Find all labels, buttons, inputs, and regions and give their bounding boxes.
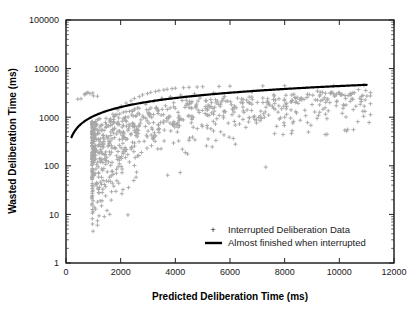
y-tick-label: 10000	[34, 64, 59, 74]
legend-plus-marker-icon: +	[210, 224, 216, 235]
y-axis-title: Wasted Deliberation Time (ms)	[7, 68, 18, 214]
x-tick-label: 8000	[275, 267, 295, 277]
x-axis-title: Predicted Deliberation Time (ms)	[152, 291, 308, 302]
y-tick-label: 100000	[29, 15, 59, 25]
legend-item-line: Almost finished when interrupted	[205, 237, 366, 248]
y-tick-label: 100	[44, 161, 59, 171]
x-tick-label: 4000	[165, 267, 185, 277]
x-tick-label: 12000	[381, 267, 406, 277]
legend-label-scatter: Interrupted Deliberation Data	[228, 224, 351, 235]
x-tick-label: 0	[63, 267, 68, 277]
y-tick-label: 10	[49, 210, 59, 220]
x-tick-label: 10000	[327, 267, 352, 277]
scatter-plot: 110100100010000100000 020004000600080001…	[0, 0, 420, 316]
x-tick-label: 6000	[220, 267, 240, 277]
y-tick-label: 1000	[39, 113, 59, 123]
y-tick-label: 1	[54, 258, 59, 268]
x-tick-label: 2000	[111, 267, 131, 277]
legend-item-scatter: + Interrupted Deliberation Data	[210, 224, 350, 235]
legend-label-line: Almost finished when interrupted	[228, 237, 366, 248]
chart-figure: 110100100010000100000 020004000600080001…	[0, 0, 420, 316]
